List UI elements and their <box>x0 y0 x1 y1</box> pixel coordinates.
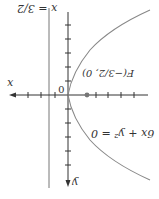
directrix-label: x = 3/2 <box>17 3 57 14</box>
y-axis-label: y <box>72 177 78 188</box>
parabola-diagram: x = 3/2 x 0 F(−3/2, 0) 6x + y² = 0 y <box>0 0 159 199</box>
diagram-canvas <box>0 0 159 199</box>
equation-label: 6x + y² = 0 <box>91 128 154 139</box>
focus-point <box>85 93 90 98</box>
focus-label: F(−3/2, 0) <box>82 68 134 78</box>
origin-label: 0 <box>58 84 64 94</box>
x-axis-label: x <box>7 78 13 89</box>
x-axis-arrow-icon <box>9 93 16 98</box>
y-axis-arrow-icon <box>66 180 71 187</box>
